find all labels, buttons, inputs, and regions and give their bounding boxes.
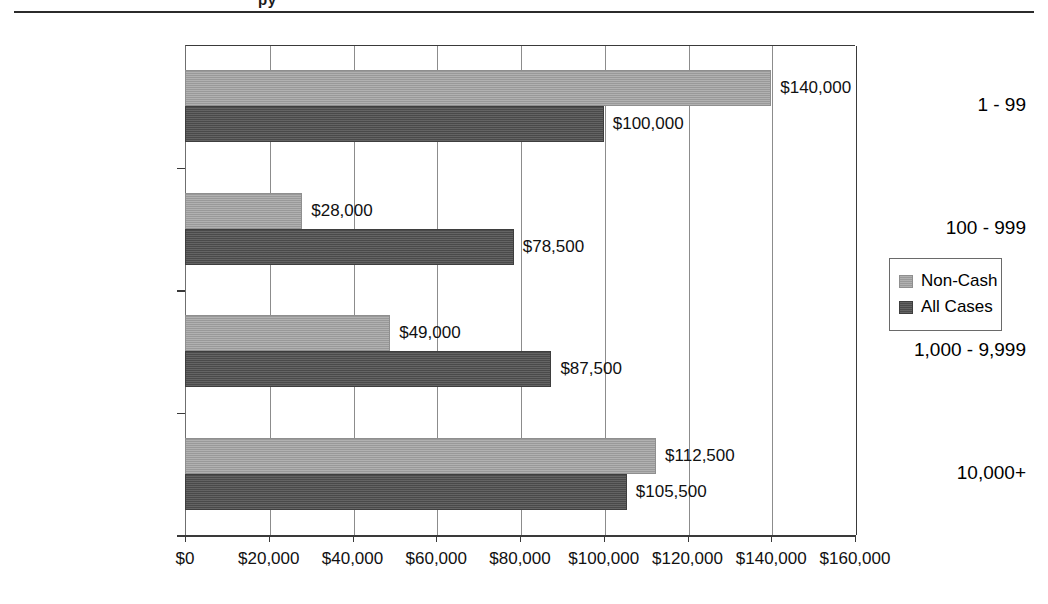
y-tick-mark	[177, 535, 185, 537]
y-category-label: 100 - 999	[873, 217, 1048, 239]
x-tick-label: $20,000	[238, 549, 299, 569]
gridline	[772, 46, 773, 535]
legend-label-all-cases: All Cases	[921, 297, 993, 317]
x-tick-label: $140,000	[736, 549, 807, 569]
bar-non-cash-1[interactable]	[185, 70, 771, 106]
bar-value-label: $87,500	[551, 351, 621, 387]
bar-non-cash-3[interactable]	[185, 315, 390, 351]
y-category-label: 10,000+	[873, 462, 1048, 484]
legend-swatch-icon-non-cash	[899, 275, 913, 288]
bar-all-cases-4[interactable]	[185, 474, 627, 510]
x-tick-label: $0	[176, 549, 195, 569]
chart-legend: Non-Cash All Cases	[889, 258, 1002, 331]
bar-non-cash-4[interactable]	[185, 438, 656, 474]
x-tick-mark	[604, 535, 605, 542]
legend-swatch-icon-all-cases	[899, 301, 913, 314]
legend-item-all-cases[interactable]: All Cases	[899, 294, 991, 320]
x-tick-mark	[436, 535, 437, 542]
bar-value-label: $105,500	[627, 474, 707, 510]
x-tick-label: $120,000	[652, 549, 723, 569]
legend-item-non-cash[interactable]: Non-Cash	[899, 268, 991, 294]
x-tick-label: $40,000	[322, 549, 383, 569]
x-tick-label: $60,000	[406, 549, 467, 569]
bar-all-cases-3[interactable]	[185, 351, 551, 387]
y-tick-mark	[177, 290, 185, 292]
bar-value-label: $78,500	[514, 229, 584, 265]
bar-non-cash-2[interactable]	[185, 193, 302, 229]
bar-all-cases-1[interactable]	[185, 106, 604, 142]
y-category-label: 1 - 99	[873, 94, 1048, 116]
x-tick-label: $160,000	[820, 549, 891, 569]
x-tick-mark	[353, 535, 354, 542]
x-tick-mark	[185, 535, 186, 542]
gridline	[856, 46, 857, 535]
bar-value-label: $49,000	[390, 315, 460, 351]
x-tick-mark	[520, 535, 521, 542]
bar-value-label: $140,000	[771, 70, 851, 106]
bar-value-label: $28,000	[302, 193, 372, 229]
x-tick-mark	[269, 535, 270, 542]
y-tick-mark	[177, 168, 185, 170]
bar-value-label: $100,000	[604, 106, 684, 142]
bar-value-label: $112,500	[656, 438, 735, 474]
x-tick-mark	[771, 535, 772, 542]
y-category-label: 1,000 - 9,999	[873, 339, 1048, 361]
y-tick-mark	[177, 413, 185, 415]
bar-chart: $140,000$100,000$28,000$78,500$49,000$87…	[0, 0, 1048, 604]
x-tick-mark	[855, 535, 856, 542]
x-tick-label: $100,000	[568, 549, 639, 569]
x-tick-mark	[688, 535, 689, 542]
bar-all-cases-2[interactable]	[185, 229, 514, 265]
x-tick-label: $80,000	[489, 549, 550, 569]
legend-label-non-cash: Non-Cash	[921, 271, 998, 291]
